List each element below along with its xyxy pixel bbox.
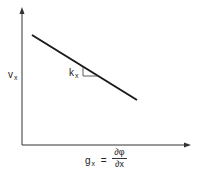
y-axis-label: vx bbox=[8, 70, 18, 80]
diagram-canvas bbox=[0, 0, 200, 179]
slope-label: kx bbox=[69, 68, 79, 78]
partial-derivative-fraction: ∂φ ∂x bbox=[112, 148, 127, 169]
linear-relationship-line bbox=[32, 35, 137, 100]
y-axis-arrow-icon bbox=[20, 7, 25, 14]
x-axis-arrow-icon bbox=[184, 143, 191, 148]
x-axis-label: gx = bbox=[85, 156, 107, 166]
